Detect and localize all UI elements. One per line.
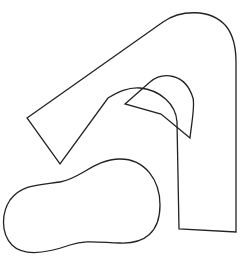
- inner-cutout: [125, 76, 194, 138]
- diagram-canvas: [0, 0, 245, 265]
- outline-drawing: [0, 0, 245, 265]
- blob-shape: [4, 159, 161, 253]
- arch-shape: [27, 13, 236, 232]
